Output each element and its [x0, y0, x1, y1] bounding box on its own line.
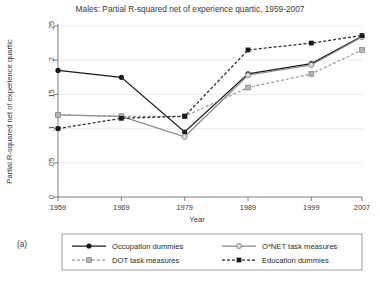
chart-title: Males: Partial R-squared net of experien… [76, 4, 305, 14]
x-tick-label: 2007 [354, 203, 370, 212]
y-tick-label: .25 [47, 21, 56, 31]
x-tick-label: 1999 [303, 203, 319, 212]
y-tick-label: 0 [47, 195, 56, 199]
legend-marker [86, 243, 91, 248]
data-point [182, 134, 187, 139]
data-point [182, 114, 187, 119]
data-point [309, 41, 314, 46]
x-tick-label: 1969 [113, 203, 129, 212]
legend-marker [236, 243, 241, 248]
data-point [309, 62, 314, 67]
y-tick-label: .15 [47, 89, 56, 99]
panel-label: (a) [17, 240, 27, 249]
x-tick-label: 1989 [240, 203, 256, 212]
data-point [56, 126, 61, 131]
y-tick-label: .1 [47, 126, 56, 132]
legend-label: Education dummies [262, 256, 329, 265]
data-point [55, 68, 60, 73]
data-point [246, 48, 251, 53]
figure-panel: Males: Partial R-squared net of experien… [0, 0, 380, 287]
y-tick-label: .2 [47, 57, 56, 63]
legend-label: Occupation dummies [112, 242, 184, 251]
legend-label: DOT task measures [112, 256, 180, 265]
x-axis-title: Year [189, 215, 205, 224]
x-tick-label: 1959 [50, 203, 66, 212]
y-axis-title: Partial R-squared net of experience quar… [5, 39, 14, 184]
data-point [119, 75, 124, 80]
legend-marker [237, 258, 242, 263]
data-point [245, 73, 250, 78]
data-point [119, 116, 124, 121]
data-point [56, 113, 61, 118]
data-point [246, 85, 251, 90]
chart-canvas: Males: Partial R-squared net of experien… [0, 0, 380, 287]
legend-label: O*NET task measures [262, 242, 338, 251]
x-tick-label: 1979 [176, 203, 192, 212]
legend-marker [87, 258, 92, 263]
data-point [360, 48, 365, 53]
data-point [360, 33, 365, 38]
data-point [309, 71, 314, 76]
y-tick-label: .05 [47, 158, 56, 168]
